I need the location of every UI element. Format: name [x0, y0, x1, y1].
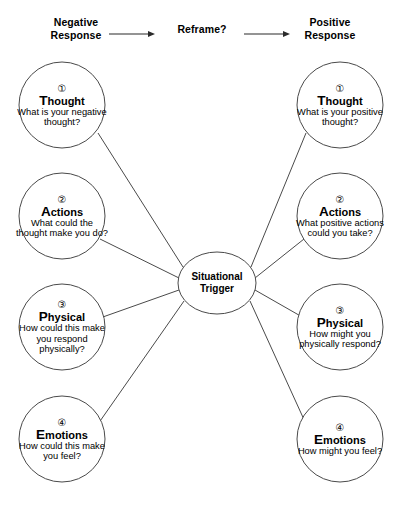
node-question: What could the thought make you do?	[16, 218, 108, 239]
node-left-emotions[interactable]: ④ Emotions How could this make you feel?	[19, 396, 105, 482]
node-heading: Actions	[319, 206, 361, 218]
node-number: ④	[336, 422, 345, 433]
node-heading-cap: E	[36, 427, 45, 442]
node-heading-cap: E	[314, 432, 323, 447]
node-number: ③	[58, 299, 67, 310]
node-heading-rest: motions	[45, 429, 88, 441]
node-question: How might you feel?	[294, 446, 386, 456]
node-heading-cap: A	[319, 204, 329, 219]
diagram-canvas: Negative Response Reframe? Positive Resp…	[0, 0, 404, 521]
node-right-emotions[interactable]: ④ Emotions How might you feel?	[297, 396, 383, 482]
node-situational-trigger[interactable]: Situational Trigger	[178, 252, 256, 314]
node-heading-cap: P	[39, 309, 48, 324]
connector-left-4	[98, 301, 184, 424]
node-right-physical[interactable]: ③ Physical How might you physically resp…	[297, 284, 383, 370]
node-heading: Physical	[39, 311, 85, 323]
node-heading-rest: hought	[325, 95, 362, 107]
node-heading-rest: hought	[47, 95, 84, 107]
node-question: What positive actions could you take?	[294, 218, 386, 239]
node-question: What is your positive thought?	[294, 107, 386, 128]
node-right-actions[interactable]: ② Actions What positive actions could yo…	[297, 173, 383, 259]
node-number: ①	[336, 83, 345, 94]
connector-right-1	[251, 133, 306, 267]
node-heading: Physical	[317, 317, 363, 329]
node-heading: Thought	[39, 95, 85, 107]
node-question: How could this make you feel?	[16, 441, 108, 462]
node-heading-rest: ctions	[329, 206, 361, 218]
node-heading-rest: ctions	[51, 206, 83, 218]
node-left-actions[interactable]: ② Actions What could the thought make yo…	[19, 173, 105, 259]
node-heading-rest: hysical	[48, 311, 85, 323]
node-heading: Thought	[317, 95, 363, 107]
node-number: ④	[58, 417, 67, 428]
node-left-physical[interactable]: ③ Physical How could this make you respo…	[19, 284, 105, 370]
node-left-thought[interactable]: ① Thought What is your negative thought?	[19, 62, 105, 148]
center-label-line1: Situational	[191, 271, 242, 282]
node-right-thought[interactable]: ① Thought What is your positive thought?	[297, 62, 383, 148]
node-heading-rest: hysical	[326, 317, 363, 329]
node-number: ②	[336, 194, 345, 205]
node-heading: Emotions	[36, 429, 88, 441]
node-number: ①	[58, 83, 67, 94]
node-heading-cap: A	[41, 204, 51, 219]
node-heading-cap: P	[317, 315, 326, 330]
node-question: How could this make you respond physical…	[16, 323, 108, 354]
connector-left-2	[100, 239, 179, 278]
center-label: Situational Trigger	[191, 271, 242, 295]
node-question: How might you physically respond?	[294, 329, 386, 350]
node-heading: Emotions	[314, 434, 366, 446]
node-heading-rest: motions	[323, 434, 366, 446]
center-label-line2: Trigger	[200, 283, 234, 294]
connector-right-2	[255, 239, 304, 278]
node-number: ③	[336, 305, 345, 316]
node-heading: Actions	[41, 206, 83, 218]
node-question: What is your negative thought?	[16, 107, 108, 128]
connector-left-3	[100, 290, 179, 318]
node-number: ②	[58, 194, 67, 205]
connector-right-3	[255, 290, 304, 318]
connector-left-1	[98, 133, 183, 267]
